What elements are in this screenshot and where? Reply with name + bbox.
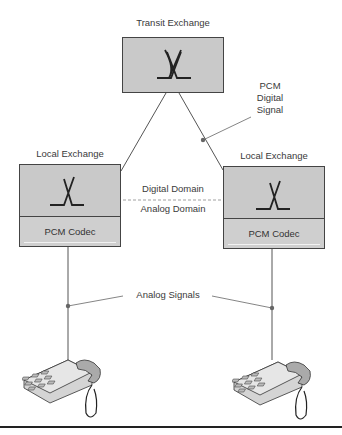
pcm-line1: PCM bbox=[250, 80, 290, 92]
switch-icon bbox=[123, 38, 223, 92]
telephone-right-icon bbox=[232, 357, 322, 427]
local-exchange-right-label: Local Exchange bbox=[223, 150, 325, 161]
analog-signals-label: Analog Signals bbox=[122, 289, 214, 300]
pcm-codec-right: PCM Codec bbox=[224, 218, 324, 248]
analog-domain-label: Analog Domain bbox=[123, 203, 223, 214]
transit-exchange-label: Transit Exchange bbox=[122, 17, 224, 28]
pcm-line2: Digital bbox=[250, 92, 290, 104]
digital-domain-label: Digital Domain bbox=[123, 183, 223, 194]
local-exchange-left-box: PCM Codec bbox=[19, 164, 121, 247]
local-exchange-right-box: PCM Codec bbox=[223, 166, 325, 249]
pcm-signal-label: PCM Digital Signal bbox=[250, 80, 290, 116]
transit-exchange-box bbox=[122, 37, 224, 93]
pcm-codec-left: PCM Codec bbox=[20, 216, 120, 246]
switch-icon bbox=[20, 165, 120, 219]
local-exchange-left-label: Local Exchange bbox=[19, 148, 121, 159]
switch-icon bbox=[224, 167, 324, 221]
telephone-left-icon bbox=[22, 355, 112, 425]
pcm-line3: Signal bbox=[250, 104, 290, 116]
